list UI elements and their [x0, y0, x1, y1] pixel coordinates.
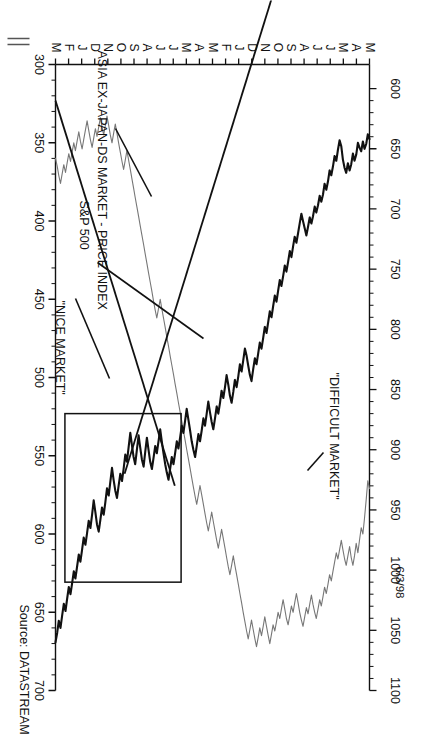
- month-tick-label: J: [153, 44, 167, 50]
- right-axis-tick-labels: 600650700750800850900950100010501100: [387, 78, 401, 704]
- chart-svg: 300350400450500550600650700 600650700750…: [0, 0, 427, 736]
- month-tick-label: J: [310, 44, 324, 50]
- asia-series-label: ASIA EX-JAPAN-DS MARKET - PRICE INDEX: [94, 50, 108, 310]
- value-tick-label: 550: [31, 445, 45, 466]
- month-tick-label: F: [61, 43, 75, 50]
- rotated-figure-container: 300350400450500550600650700 600650700750…: [0, 0, 427, 736]
- month-tick-label: A: [192, 43, 206, 51]
- nice-market-trendline: [124, 0, 344, 473]
- value-tick-label: 500: [31, 367, 45, 388]
- value-tick-label: 900: [387, 439, 401, 460]
- month-tick-label: J: [166, 44, 180, 50]
- month-tick-label: J: [231, 44, 245, 50]
- value-tick-label: 600: [387, 78, 401, 99]
- spx-series-label: S&P 500: [76, 200, 90, 249]
- figure: 300350400450500550600650700 600650700750…: [0, 0, 427, 736]
- month-tick-label: O: [113, 42, 127, 51]
- left-axis-tick-labels: 300350400450500550600650700: [31, 54, 45, 701]
- month-tick-label: S: [284, 43, 298, 51]
- difficult-market-leader: [307, 452, 323, 470]
- month-tick-label: M: [205, 42, 219, 52]
- month-tick-label: F: [218, 43, 232, 50]
- value-tick-label: 850: [387, 379, 401, 400]
- month-tick-label: M: [336, 42, 350, 52]
- difficult-market-trendline: [55, 100, 174, 485]
- month-tick-label: S: [127, 43, 141, 51]
- nice-market-leader: [75, 298, 109, 378]
- month-tick-label: M: [48, 42, 62, 52]
- value-tick-label: 650: [31, 601, 45, 622]
- value-tick-label: 650: [387, 138, 401, 159]
- value-tick-label: 450: [31, 288, 45, 309]
- nice-market-label: "NICE MARKET": [52, 300, 66, 394]
- month-tick-label: M: [179, 42, 193, 52]
- chart-page: 300350400450500550600650700 600650700750…: [0, 0, 427, 736]
- corner-mark: [7, 38, 29, 44]
- value-tick-label: 950: [387, 499, 401, 520]
- month-tick-label: A: [297, 43, 311, 51]
- value-tick-label: 750: [387, 258, 401, 279]
- month-tick-label: N: [257, 43, 271, 52]
- month-tick-label: O: [270, 42, 284, 51]
- value-tick-label: 400: [31, 210, 45, 231]
- value-tick-label: 350: [31, 132, 45, 153]
- month-tick-label: J: [323, 44, 337, 50]
- month-tick-label: A: [349, 43, 363, 51]
- month-tick-label: A: [140, 43, 154, 51]
- difficult-market-label: "DIFFICULT MARKET": [326, 372, 340, 499]
- value-tick-label: 800: [387, 318, 401, 339]
- month-tick-label: M: [362, 42, 376, 52]
- month-tick-label: J: [74, 44, 88, 50]
- value-tick-label: 300: [31, 54, 45, 75]
- value-tick-label: 700: [31, 680, 45, 701]
- value-tick-label: 700: [387, 198, 401, 219]
- value-tick-label: 1100: [387, 677, 401, 704]
- value-tick-label: 600: [31, 523, 45, 544]
- date-stamp: 6/3/98: [393, 566, 405, 598]
- value-tick-label: 1050: [387, 616, 401, 644]
- source-note: Source: DATASTREAM: [16, 604, 30, 734]
